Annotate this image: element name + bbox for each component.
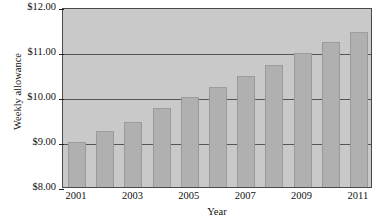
bar: [209, 87, 227, 187]
y-tick-mark: [59, 9, 64, 10]
x-axis-title: Year: [62, 206, 372, 217]
plot-area: [62, 8, 372, 188]
bar: [181, 97, 199, 187]
y-tick-mark: [59, 144, 64, 145]
x-tick-label: 2009: [279, 190, 325, 201]
y-tick-mark: [59, 99, 64, 100]
bar: [68, 142, 86, 187]
bar: [294, 53, 312, 187]
bar: [153, 108, 171, 187]
bar: [124, 122, 142, 187]
x-tick-label: 2011: [335, 190, 379, 201]
x-tick-label: 2005: [166, 190, 212, 201]
x-tick-label: 2003: [109, 190, 155, 201]
y-tick-label: $9.00: [8, 136, 56, 147]
y-axis-tick-labels: $12.00$11.00$10.00$9.00$8.00: [8, 0, 56, 224]
y-tick-label: $12.00: [8, 1, 56, 12]
bar: [350, 32, 368, 187]
bar: [237, 76, 255, 187]
x-axis-tick-labels: 200120032005200720092011: [62, 190, 372, 206]
y-tick-label: $10.00: [8, 91, 56, 102]
bar: [322, 42, 340, 187]
bar: [265, 65, 283, 187]
x-tick-label: 2007: [222, 190, 268, 201]
y-tick-label: $8.00: [8, 181, 56, 192]
x-tick-label: 2001: [53, 190, 99, 201]
y-tick-mark: [59, 54, 64, 55]
y-tick-label: $11.00: [8, 46, 56, 57]
bar-chart: Weekly allowance $12.00$11.00$10.00$9.00…: [0, 0, 379, 224]
bar: [96, 131, 114, 187]
